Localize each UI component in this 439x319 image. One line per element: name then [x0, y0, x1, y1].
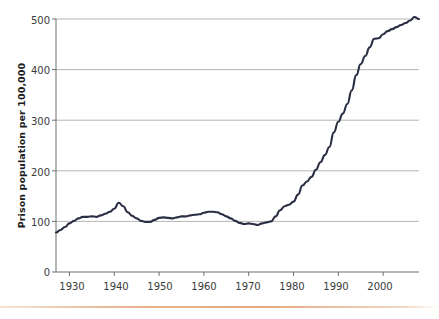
- y-tick-label-0: 0: [0, 268, 50, 278]
- gridlines: [56, 19, 419, 221]
- y-tick-label-100: 100: [0, 218, 50, 228]
- x-tick-label-1980: 1980: [272, 282, 312, 292]
- x-tick-label-1930: 1930: [52, 282, 92, 292]
- axis-ticks: [52, 19, 383, 276]
- y-tick-label-500: 500: [0, 16, 50, 26]
- bottom-divider-rule: [0, 306, 439, 308]
- x-tick-label-1970: 1970: [228, 282, 268, 292]
- x-tick-label-1950: 1950: [140, 282, 180, 292]
- data-series-line: [56, 17, 419, 233]
- x-tick-label-1940: 1940: [96, 282, 136, 292]
- y-tick-label-400: 400: [0, 66, 50, 76]
- chart-container: Prison population per 100,000 500 400 30…: [0, 0, 439, 319]
- plot-area: [0, 0, 439, 319]
- y-tick-label-300: 300: [0, 117, 50, 127]
- x-tick-label-2000: 2000: [360, 282, 400, 292]
- x-tick-label-1960: 1960: [184, 282, 224, 292]
- x-tick-label-1990: 1990: [316, 282, 356, 292]
- y-tick-label-200: 200: [0, 168, 50, 178]
- y-axis-title: Prison population per 100,000: [16, 56, 27, 236]
